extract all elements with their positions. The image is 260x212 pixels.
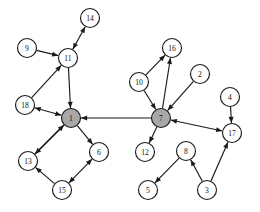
- edge-3-17: [211, 142, 228, 181]
- node-circle-8[interactable]: [177, 142, 196, 161]
- node-circle-13[interactable]: [19, 152, 38, 171]
- arrowhead-3-to-17: [223, 142, 228, 149]
- node-circle-11[interactable]: [59, 49, 78, 68]
- graph-node-17[interactable]: 17: [223, 124, 242, 143]
- graph-node-6[interactable]: 6: [90, 143, 109, 162]
- graph-node-12[interactable]: 12: [136, 143, 155, 162]
- graph-node-14[interactable]: 14: [81, 9, 100, 28]
- node-circle-14[interactable]: [81, 9, 100, 28]
- graph-node-2[interactable]: 2: [191, 65, 210, 84]
- node-circle-5[interactable]: [139, 181, 158, 200]
- graph-node-15[interactable]: 15: [53, 181, 72, 200]
- edge-18-11: [32, 65, 62, 97]
- node-circle-15[interactable]: [53, 181, 72, 200]
- arrowhead-11-to-14: [80, 27, 85, 34]
- arrowhead-18-to-1: [55, 111, 62, 116]
- arrowhead-4-to-17: [229, 117, 234, 123]
- node-circle-1[interactable]: [62, 109, 81, 128]
- network-diagram: 149111621018417176131281553: [0, 0, 260, 212]
- arrowhead-7-to-17: [216, 127, 223, 132]
- node-circle-2[interactable]: [191, 65, 210, 84]
- arrowhead-7-to-1: [81, 116, 87, 121]
- graph-node-8[interactable]: 8: [177, 142, 196, 161]
- node-circle-16[interactable]: [163, 39, 182, 58]
- graph-node-7[interactable]: 7: [152, 109, 171, 128]
- node-circle-3[interactable]: [198, 181, 217, 200]
- arrowhead-7-to-16: [167, 58, 172, 65]
- node-circle-4[interactable]: [221, 88, 240, 107]
- node-circle-6[interactable]: [90, 143, 109, 162]
- edge-7-16: [163, 58, 171, 108]
- arrowhead-7-to-12: [149, 136, 154, 143]
- graph-node-1[interactable]: 1: [62, 109, 81, 128]
- arrowhead-3-to-8: [191, 160, 196, 167]
- arrowhead-11-to-1: [68, 102, 73, 108]
- arrowhead-14-to-11: [73, 43, 78, 50]
- graph-node-13[interactable]: 13: [19, 152, 38, 171]
- edge-7-17: [171, 120, 223, 131]
- graph-node-11[interactable]: 11: [59, 49, 78, 68]
- node-circle-12[interactable]: [136, 143, 155, 162]
- arrowhead-10-to-7: [150, 103, 155, 110]
- graph-node-4[interactable]: 4: [221, 88, 240, 107]
- graph-node-5[interactable]: 5: [139, 181, 158, 200]
- graph-canvas: 149111621018417176131281553: [0, 0, 260, 212]
- node-circle-7[interactable]: [152, 109, 171, 128]
- nodes-layer: 149111621018417176131281553: [16, 9, 242, 200]
- node-circle-10[interactable]: [130, 73, 149, 92]
- graph-node-18[interactable]: 18: [16, 96, 35, 115]
- arrowhead-1-to-18: [35, 107, 42, 112]
- graph-node-3[interactable]: 3: [198, 181, 217, 200]
- graph-node-10[interactable]: 10: [130, 73, 149, 92]
- node-circle-17[interactable]: [223, 124, 242, 143]
- graph-node-16[interactable]: 16: [163, 39, 182, 58]
- node-circle-9[interactable]: [18, 39, 37, 58]
- graph-node-9[interactable]: 9: [18, 39, 37, 58]
- arrowhead-17-to-7: [171, 119, 178, 124]
- node-circle-18[interactable]: [16, 96, 35, 115]
